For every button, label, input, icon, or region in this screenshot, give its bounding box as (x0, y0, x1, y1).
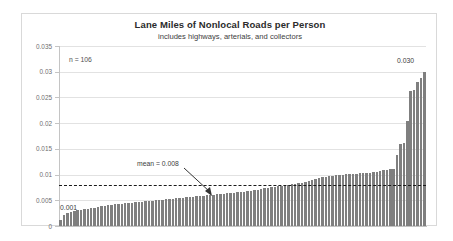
bar (355, 174, 357, 226)
bar (345, 174, 347, 226)
title-block: Lane Miles of Nonlocal Roads per Person … (22, 19, 438, 42)
bar (100, 206, 102, 226)
x-axis-line (59, 226, 427, 227)
bar (253, 190, 255, 226)
bar (104, 206, 106, 226)
chart-subtitle: includes highways, arterials, and collec… (22, 31, 438, 42)
bar (382, 170, 384, 226)
bar (423, 72, 425, 226)
bar (352, 174, 354, 226)
bar (151, 201, 153, 226)
bar (284, 185, 286, 226)
bar (263, 188, 265, 226)
bar (311, 180, 313, 226)
bar (348, 174, 350, 226)
bar (127, 203, 129, 226)
bar (413, 90, 415, 226)
bar (420, 78, 422, 226)
bar (148, 201, 150, 226)
y-tick-label: 0.01 (18, 171, 52, 178)
bar (416, 82, 418, 226)
y-tick-label: 0.015 (18, 145, 52, 152)
bar (287, 185, 289, 226)
bar (144, 201, 146, 226)
bar (66, 213, 68, 226)
bar (141, 202, 143, 226)
bar (338, 175, 340, 226)
plot-area (59, 46, 426, 226)
bar (365, 173, 367, 226)
bar (134, 202, 136, 226)
bar (117, 204, 119, 226)
bar (386, 170, 388, 226)
mean-reference-line (59, 185, 426, 186)
bar (267, 188, 269, 226)
bar (124, 203, 126, 226)
bar (406, 121, 408, 226)
bar (376, 172, 378, 227)
bar (274, 187, 276, 226)
bar (243, 192, 245, 226)
bar (138, 202, 140, 226)
bar (246, 191, 248, 226)
bar (97, 207, 99, 226)
mean-annotation-label: mean = 0.008 (137, 160, 179, 167)
bar (331, 176, 333, 226)
bar (359, 173, 361, 226)
y-tick-label: 0.005 (18, 197, 52, 204)
bar (308, 181, 310, 226)
bar (328, 176, 330, 226)
bar (83, 209, 85, 226)
y-tick-label: 0.03 (18, 68, 52, 75)
bar (165, 199, 167, 226)
bar (335, 175, 337, 226)
bar (76, 210, 78, 226)
bar (270, 187, 272, 226)
y-tick-label: 0 (18, 223, 52, 230)
bar (257, 190, 259, 227)
bar (63, 215, 65, 226)
y-tick-label: 0.035 (18, 43, 52, 50)
bar (379, 171, 381, 226)
bar (369, 173, 371, 226)
bar (70, 212, 72, 226)
bar (80, 210, 82, 226)
min-value-annotation: 0.001 (60, 204, 77, 211)
bar (110, 205, 112, 226)
bar (342, 175, 344, 226)
bar (280, 186, 282, 226)
bar (155, 200, 157, 226)
bar (158, 200, 160, 226)
mean-annotation-arrow (182, 166, 242, 206)
bar (250, 191, 252, 226)
bar (396, 155, 398, 226)
bar (301, 183, 303, 226)
bar (73, 211, 75, 226)
bar (161, 200, 163, 226)
page-title: Lane Miles of Nonlocal Roads per Person (22, 19, 438, 31)
y-tick-label: 0.025 (18, 94, 52, 101)
max-value-annotation: 0.030 (397, 57, 414, 64)
bar (121, 204, 123, 226)
bar (131, 203, 133, 226)
bar (87, 209, 89, 226)
bar (260, 189, 262, 226)
bar (291, 184, 293, 226)
sample-size-annotation: n = 106 (69, 56, 92, 63)
bar (114, 204, 116, 226)
bar (90, 208, 92, 226)
bar (175, 198, 177, 226)
bar (178, 198, 180, 226)
bar (59, 220, 61, 226)
chart-frame: Lane Miles of Nonlocal Roads per Person … (21, 13, 437, 226)
bar (409, 91, 411, 226)
bar (372, 172, 374, 226)
bar (389, 169, 391, 226)
bar (362, 173, 364, 226)
bar (304, 182, 306, 226)
bar (168, 199, 170, 226)
bar (93, 208, 95, 227)
y-tick-label: 0.02 (18, 120, 52, 127)
bar (107, 205, 109, 226)
bar (277, 186, 279, 226)
